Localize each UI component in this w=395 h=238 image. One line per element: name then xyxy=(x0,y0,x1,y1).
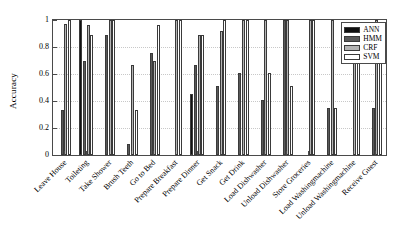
y-tick-label: 0.8 xyxy=(23,42,49,51)
legend-label-crf: CRF xyxy=(363,43,377,52)
legend-item[interactable]: ANN xyxy=(344,25,382,34)
legend-label-svm: SVM xyxy=(363,52,379,61)
y-tick-label: 0.2 xyxy=(23,123,49,132)
legend-item[interactable]: HMM xyxy=(344,34,382,43)
y-tick-label: 0.4 xyxy=(23,96,49,105)
bar-svm xyxy=(179,20,182,155)
bar-hmm xyxy=(61,110,64,155)
bar-crf xyxy=(175,20,178,155)
legend-swatch-hmm-icon xyxy=(344,36,360,42)
bar-svm xyxy=(268,73,271,155)
legend-item[interactable]: SVM xyxy=(344,52,382,61)
accuracy-bar-chart-figure: Accuracy 00.20.40.60.81 Leave HouseToile… xyxy=(0,0,395,238)
legend-swatch-svm-icon xyxy=(344,54,360,60)
legend-label-hmm: HMM xyxy=(363,34,382,43)
y-axis-title: Accuracy xyxy=(8,46,18,136)
legend: ANN HMM CRF SVM xyxy=(341,22,386,64)
legend-label-ann: ANN xyxy=(363,25,379,34)
bar-svm xyxy=(112,20,115,155)
bar-ann xyxy=(79,20,82,155)
bar-crf xyxy=(64,24,67,155)
legend-swatch-ann-icon xyxy=(344,27,360,33)
y-tick-label: 0.6 xyxy=(23,69,49,78)
bar-svm xyxy=(290,86,293,155)
legend-swatch-crf-icon xyxy=(344,45,360,51)
bar-group xyxy=(102,20,116,155)
bar-hmm xyxy=(105,35,108,155)
legend-item[interactable]: CRF xyxy=(344,43,382,52)
bar-group xyxy=(257,20,271,155)
bar-svm xyxy=(68,20,71,155)
bar-svm xyxy=(246,20,249,155)
y-tick-label: 1 xyxy=(23,15,49,24)
bar-crf xyxy=(109,20,112,155)
y-tick-mark xyxy=(53,155,57,156)
y-tick-label: 0 xyxy=(23,150,49,159)
bar-group xyxy=(57,20,71,155)
bar-crf xyxy=(264,20,267,155)
